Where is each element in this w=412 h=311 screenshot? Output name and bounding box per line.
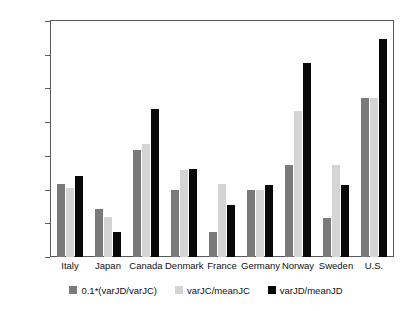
x-axis-tick-label: U.S. (355, 259, 393, 273)
bar (227, 205, 235, 257)
bar (265, 185, 273, 257)
x-axis-tick-label: Canada (127, 259, 165, 273)
chart-legend: 0.1*(varJD/varJC)varJC/meanJCvarJD/meanJ… (0, 282, 412, 298)
x-axis-tick-label: Germany (241, 259, 279, 273)
bar (256, 190, 264, 257)
bar-group (241, 21, 279, 257)
x-axis-tick-label: Italy (51, 259, 89, 273)
legend-swatch-icon (268, 286, 276, 294)
legend-item: varJC/meanJC (175, 285, 250, 296)
bar (151, 109, 159, 257)
bar (133, 150, 141, 257)
legend-swatch-icon (175, 286, 183, 294)
bar (294, 111, 302, 257)
bar-group (317, 21, 355, 257)
bar (361, 98, 369, 257)
bar (95, 209, 103, 257)
legend-label: varJD/meanJD (280, 285, 343, 296)
x-axis-tick-label: Denmark (165, 259, 203, 273)
bar (171, 190, 179, 257)
bar-chart-figure: 00.050.10.150.20.250.30.35 ItalyJapanCan… (0, 0, 412, 311)
bar (323, 218, 331, 257)
y-axis: 00.050.10.150.20.250.30.35 (0, 0, 50, 311)
y-axis-tick-mark (45, 190, 50, 191)
y-axis-tick-mark (45, 55, 50, 56)
y-axis-tick-mark (45, 156, 50, 157)
bar-group (279, 21, 317, 257)
bar (379, 39, 387, 257)
bar (341, 185, 349, 257)
bar (332, 165, 340, 257)
bar (303, 63, 311, 257)
bar (180, 170, 188, 257)
legend-label: varJC/meanJC (187, 285, 250, 296)
bar (57, 184, 65, 257)
bar-group (203, 21, 241, 257)
legend-item: 0.1*(varJD/varJC) (69, 285, 157, 296)
x-axis-tick-label: France (203, 259, 241, 273)
bars-layer (51, 21, 393, 257)
bar (113, 232, 121, 257)
bar-group (89, 21, 127, 257)
y-axis-tick-mark (45, 257, 50, 258)
y-axis-tick-mark (45, 122, 50, 123)
bar (189, 169, 197, 257)
y-axis-tick-mark (45, 88, 50, 89)
bar (75, 176, 83, 257)
bar (66, 188, 74, 257)
bar (285, 165, 293, 257)
bar (104, 217, 112, 257)
x-axis: ItalyJapanCanadaDenmarkFranceGermanyNorw… (51, 259, 393, 277)
bar-group (165, 21, 203, 257)
y-axis-tick-mark (45, 21, 50, 22)
bar (142, 144, 150, 257)
bar-group (355, 21, 393, 257)
bar-group (51, 21, 89, 257)
legend-item: varJD/meanJD (268, 285, 343, 296)
x-axis-tick-label: Japan (89, 259, 127, 273)
bar (218, 184, 226, 257)
bar-group (127, 21, 165, 257)
x-axis-tick-label: Sweden (317, 259, 355, 273)
bar (370, 98, 378, 257)
bar (247, 190, 255, 257)
y-axis-tick-mark (45, 223, 50, 224)
bar (209, 232, 217, 257)
x-axis-tick-label: Norway (279, 259, 317, 273)
legend-label: 0.1*(varJD/varJC) (81, 285, 157, 296)
legend-swatch-icon (69, 286, 77, 294)
